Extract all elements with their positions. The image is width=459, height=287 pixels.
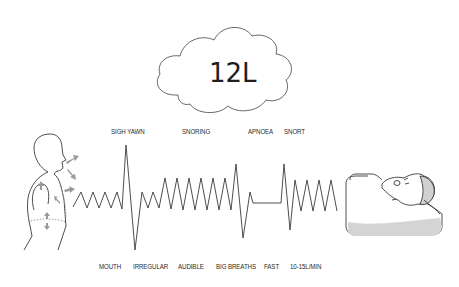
breathing-pattern-diagram: 12L SIGH YAWN SNORING APNOEA SNORT MOUTH… (0, 0, 459, 287)
upright-person-icon (24, 134, 66, 250)
cloud-label: 12L (209, 58, 257, 88)
airflow-arrows-icon (38, 155, 79, 230)
label-apnoea: APNOEA (248, 127, 273, 136)
breathing-waveform (73, 145, 337, 250)
label-irregular: IRREGULAR (133, 262, 168, 271)
label-snoring: SNORING (182, 127, 210, 136)
label-big-breaths: BIG BREATHS (216, 262, 256, 271)
sleeping-person-icon (346, 174, 442, 236)
label-mouth: MOUTH (99, 262, 121, 271)
diagram-graphics (0, 0, 459, 287)
label-audible: AUDIBLE (178, 262, 204, 271)
label-fast: FAST (264, 262, 279, 271)
label-snort: SNORT (284, 127, 305, 136)
label-rate: 10-15L/MIN (290, 262, 321, 271)
label-sigh-yawn: SIGH YAWN (111, 127, 145, 136)
